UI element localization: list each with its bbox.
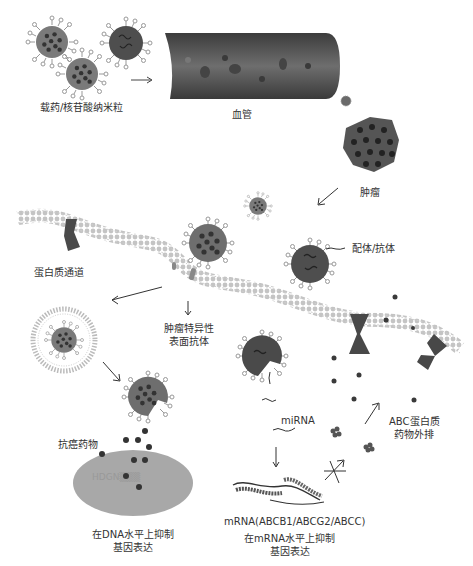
mrna-strand — [233, 479, 324, 504]
label-abc-line1: ABC蛋白质 — [389, 415, 440, 428]
mirna-arrow — [273, 447, 279, 467]
label-dna-inhibit: 在DNA水平上抑制 基因表达 — [92, 528, 174, 554]
label-tumor-antigen-line2: 表面抗体 — [164, 335, 214, 348]
dna-faint-text: HDGN▒▒▒ — [92, 471, 140, 483]
label-tumor: 肿瘤 — [360, 186, 380, 199]
tumor-cluster — [343, 117, 399, 172]
label-mrna-inhibit-line2: 基因表达 — [244, 545, 335, 558]
cell-membrane — [18, 211, 460, 353]
nucleotide-nanoparticle — [100, 17, 152, 69]
label-protein-channel: 蛋白质通道 — [34, 266, 84, 279]
efflux-arrow — [365, 403, 379, 424]
small-nanoparticle — [244, 192, 273, 221]
tumor-antigen-2 — [172, 262, 176, 270]
label-dna-inhibit-line2: 基因表达 — [92, 541, 174, 554]
releasing-nanoparticle — [122, 371, 174, 423]
label-abc: ABC蛋白质 药物外排 — [389, 415, 440, 441]
label-mrna-inhibit-line1: 在mRNA水平上抑制 — [244, 532, 335, 545]
bound-nanoparticle — [182, 217, 234, 269]
arrow-release — [103, 362, 120, 381]
label-tumor-antigen: 肿瘤特异性 表面抗体 — [164, 322, 214, 348]
label-blood-vessel: 血管 — [232, 108, 252, 121]
antigen-arrow — [185, 301, 191, 315]
label-anticancer-drug: 抗癌药物 — [58, 438, 98, 451]
drug-nanoparticle-2 — [56, 48, 108, 100]
label-tumor-antigen-line1: 肿瘤特异性 — [164, 322, 214, 335]
blocked-arrow — [324, 460, 346, 483]
label-ligand-antibody: 配体/抗体 — [352, 242, 395, 255]
opened-mirna-nanoparticle — [236, 330, 288, 382]
blood-vessel — [165, 33, 340, 99]
arrow-to-liposome — [112, 287, 162, 304]
ligand-pointer — [326, 248, 345, 249]
label-nanoparticle: 载药/核苷酸纳米粒 — [40, 101, 123, 114]
arrow-to-vessel — [131, 77, 152, 83]
drug-clusters — [331, 427, 375, 453]
label-mirna: miRNA — [281, 414, 315, 427]
label-abc-line2: 药物外排 — [389, 428, 440, 441]
drug-nanoparticle-1 — [26, 16, 78, 68]
diagram-canvas: HDGN▒▒▒ — [0, 0, 473, 566]
label-mrna: mRNA(ABCB1/ABCG2/ABCC) — [224, 515, 365, 528]
label-dna-inhibit-line1: 在DNA水平上抑制 — [92, 528, 174, 541]
label-mrna-inhibit: 在mRNA水平上抑制 基因表达 — [244, 532, 335, 558]
arrow-from-tumor — [318, 188, 338, 205]
endosome-liposome — [33, 309, 95, 371]
small-particle — [341, 96, 351, 106]
ligand-nanoparticle — [284, 238, 336, 290]
